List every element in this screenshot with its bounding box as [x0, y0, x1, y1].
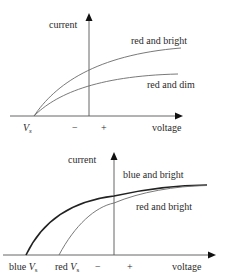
bottom-y-axis-arrow-icon: [111, 152, 118, 160]
curve-red-and-bright-bottom: [59, 186, 207, 256]
label-red-and-bright: red and bright: [131, 35, 187, 46]
bottom-y-axis-label: current: [68, 154, 97, 165]
curve-blue-and-bright: [26, 185, 207, 255]
top-x-axis-label: voltage: [152, 122, 182, 133]
top-plus-label: +: [101, 122, 107, 133]
red-vs-label: red Vs: [55, 261, 79, 274]
bottom-minus-label: −: [95, 261, 101, 272]
top-x-axis-arrow-icon: [175, 113, 183, 120]
label-red-and-bright-bottom: red and bright: [136, 201, 192, 212]
bottom-x-axis-arrow-icon: [208, 252, 216, 259]
top-y-axis-arrow-icon: [86, 13, 93, 21]
label-red-and-dim: red and dim: [147, 79, 195, 90]
top-y-axis-label: current: [49, 19, 78, 30]
bottom-x-axis-label: voltage: [172, 261, 202, 272]
top-iv-diagram: current red and bright red and dim Vs − …: [10, 13, 195, 135]
top-minus-label: −: [72, 122, 78, 133]
label-blue-and-bright: blue and bright: [123, 169, 184, 180]
top-vs-label: Vs: [23, 122, 32, 135]
bottom-iv-diagram: current blue and bright red and bright b…: [3, 152, 216, 274]
diagram-canvas: current red and bright red and dim Vs − …: [0, 0, 228, 280]
bottom-plus-label: +: [127, 261, 133, 272]
blue-vs-label: blue Vs: [9, 261, 38, 274]
